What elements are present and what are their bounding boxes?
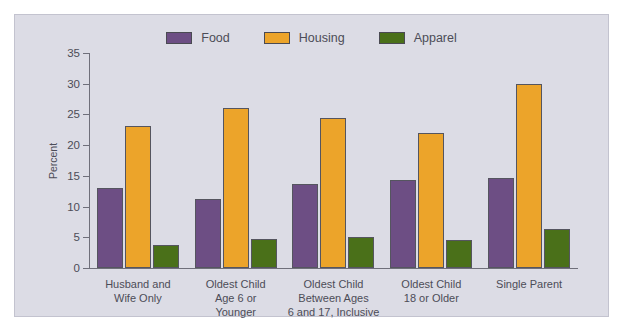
x-category-label-line: 18 or Older	[382, 291, 480, 305]
y-tick-label: 35	[67, 47, 80, 59]
x-category-label: Oldest ChildBetween Ages6 and 17, Inclus…	[285, 277, 383, 319]
bar-housing	[418, 133, 444, 268]
bar-housing	[125, 126, 151, 269]
y-tick-label: 5	[74, 231, 80, 243]
legend-label: Food	[201, 31, 230, 45]
legend-item-housing: Housing	[264, 31, 345, 45]
x-category-label-line: Oldest Child	[187, 277, 285, 291]
x-category-label: Oldest Child18 or Older	[382, 277, 480, 305]
bar-food	[390, 180, 416, 268]
bar-apparel	[153, 245, 179, 268]
legend-label: Apparel	[414, 31, 457, 45]
x-axis-line	[89, 268, 578, 269]
bar-housing	[320, 118, 346, 268]
y-tick-mark	[83, 268, 89, 269]
x-category-label: Husband andWife Only	[89, 277, 187, 305]
bar-food	[195, 199, 221, 268]
legend-item-apparel: Apparel	[379, 31, 457, 45]
bar-housing	[223, 108, 249, 268]
chart-figure: FoodHousingApparel Percent 0510152025303…	[14, 14, 609, 317]
x-category-label-line: 6 and 17, Inclusive	[285, 305, 383, 319]
bar-food	[97, 188, 123, 268]
x-category-label-line: Wife Only	[89, 291, 187, 305]
x-category-label-line: Oldest Child	[382, 277, 480, 291]
bar-apparel	[544, 229, 570, 268]
chart-legend: FoodHousingApparel	[15, 31, 608, 45]
legend-swatch-apparel-icon	[379, 32, 405, 44]
plot-area: Percent 05101520253035 Husband andWife O…	[89, 53, 578, 269]
legend-label: Housing	[299, 31, 345, 45]
y-tick-label: 10	[67, 201, 80, 213]
bar-group	[89, 53, 187, 268]
bar-group	[480, 53, 578, 268]
x-category-label: Oldest ChildAge 6 orYounger	[187, 277, 285, 319]
bar-group	[285, 53, 383, 268]
bar-apparel	[251, 239, 277, 268]
bar-food	[292, 184, 318, 268]
x-category-label-line: Younger	[187, 305, 285, 319]
y-axis-title: Percent	[47, 143, 59, 179]
x-category-label-line: Single Parent	[480, 277, 578, 291]
y-tick-label: 15	[67, 170, 80, 182]
y-tick-label: 0	[74, 262, 80, 274]
y-tick-label: 30	[67, 78, 80, 90]
legend-swatch-food-icon	[166, 32, 192, 44]
x-category-label-line: Oldest Child	[285, 277, 383, 291]
bar-food	[488, 178, 514, 268]
y-tick-label: 20	[67, 139, 80, 151]
x-category-label: Single Parent	[480, 277, 578, 291]
x-category-label-line: Age 6 or	[187, 291, 285, 305]
legend-swatch-housing-icon	[264, 32, 290, 44]
legend-item-food: Food	[166, 31, 230, 45]
bar-housing	[516, 84, 542, 268]
x-category-label-line: Husband and	[89, 277, 187, 291]
x-category-label-line: Between Ages	[285, 291, 383, 305]
bar-group	[382, 53, 480, 268]
bar-apparel	[446, 240, 472, 268]
bar-group	[187, 53, 285, 268]
y-tick-label: 25	[67, 108, 80, 120]
bar-apparel	[348, 237, 374, 268]
